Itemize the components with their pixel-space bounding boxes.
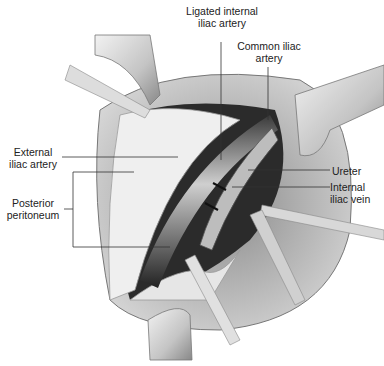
surgical-illustration	[0, 0, 384, 366]
label-posterior-peritoneum: Posterior peritoneum	[2, 197, 64, 221]
label-ureter: Ureter	[332, 165, 372, 177]
label-external-iliac-artery: External iliac artery	[2, 146, 64, 170]
label-internal-iliac-vein: Internal iliac vein	[330, 181, 380, 205]
label-ligated-internal-iliac-artery: Ligated internal iliac artery	[176, 5, 268, 29]
label-common-iliac-artery: Common iliac artery	[232, 40, 306, 64]
retractor-bottom	[148, 309, 192, 360]
